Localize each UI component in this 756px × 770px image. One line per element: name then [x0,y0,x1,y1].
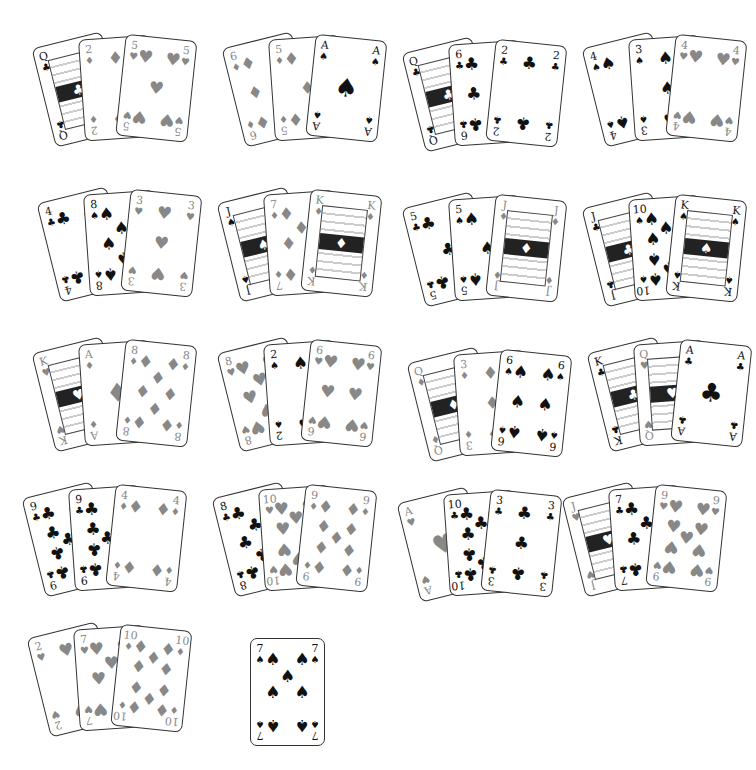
playing-card-8-of-diamonds[interactable]: 8♦8♦8♦8♦♦♦♦♦♦♦♦♦ [115,339,197,448]
diamond-icon: ♦ [160,640,177,659]
card-rank: J [610,288,617,302]
card-hand: Q♦Q♦Q♦Q♦♦3♦3♦3♦3♦♦♦♦6♠6♠6♠6♠♠♠♠♠♠♠ [410,340,580,480]
court-card-artwork: ♠ [680,210,733,286]
heart-icon: ♥ [695,500,712,519]
club-icon: ♣ [468,115,484,133]
heart-icon: ♥ [241,388,260,408]
diamond-icon: ♦ [253,112,272,132]
card-hand: K♥K♥K♥K♥♥A♦A♦A♦A♦♦8♦8♦8♦8♦♦♦♦♦♦♦♦♦ [35,330,205,470]
heart-icon: ♥ [667,498,684,517]
heart-icon: ♥ [90,670,106,688]
diamond-icon: ♦ [341,540,358,559]
spade-icon: ♠ [699,240,713,257]
diamond-icon: ♦ [288,110,304,128]
club-icon: ♣ [53,562,72,582]
playing-card-3-of-hearts[interactable]: 3♥3♥3♥3♥♥♥♥ [120,189,202,298]
spade-icon: ♠ [295,716,310,733]
club-icon: ♣ [510,564,527,583]
heart-icon: ♥ [708,111,725,130]
heart-icon: ♥ [275,520,291,538]
heart-icon: ♥ [93,700,109,718]
heart-icon: ♥ [681,108,698,127]
playing-card-4-of-hearts[interactable]: 4♥4♥4♥4♥♥♥♥♥ [665,34,747,143]
spade-icon: ♠ [613,112,632,132]
pip-area: ♠ [320,50,373,126]
spade-icon: ♠ [512,363,529,382]
playing-card-K-of-diamonds[interactable]: K♦K♦K♦K♦♦ [300,189,382,298]
heart-icon: ♥ [343,416,360,435]
playing-card-6-of-spades[interactable]: 6♠6♠6♠6♠♠♠♠♠♠♠ [490,349,572,458]
spade-icon: ♠ [648,270,664,288]
heart-icon: ♥ [691,540,708,559]
playing-card-J-of-diamonds[interactable]: J♦J♦J♦J♦♦ [485,194,567,303]
playing-card-A-of-spades[interactable]: A♠A♠A♠A♠♠ [305,34,387,143]
spade-icon: ♠ [265,684,280,701]
playing-card-3-of-clubs[interactable]: 3♣3♣3♣3♣♣♣♣ [480,489,562,598]
diamond-icon: ♦ [148,561,165,580]
diamond-icon: ♦ [158,416,175,435]
playing-card-2-of-clubs[interactable]: 2♣2♣2♣2♣♣♣ [485,39,567,148]
diamond-icon: ♦ [158,660,175,679]
diamond-icon: ♦ [313,538,330,557]
club-icon: ♣ [463,565,479,583]
spade-icon: ♠ [506,423,523,442]
club-icon: ♣ [521,54,538,73]
playing-card-9-of-diamonds[interactable]: 9♦9♦9♦9♦♦♦♦♦♦♦♦♦♦ [295,484,377,593]
heart-icon: ♥ [347,385,364,404]
playing-card-A-of-clubs[interactable]: A♣A♣A♣A♣♣ [670,339,752,448]
heart-icon: ♥ [233,358,252,378]
club-icon: ♣ [433,272,452,292]
pip-area: ♦♦♦♦♦♦♦♦ [130,355,183,431]
spade-icon: ♠ [537,395,554,414]
playing-card-10-of-diamonds[interactable]: 10♦10♦10♦10♦♦♦♦♦♦♦♦♦♦♦ [110,624,192,733]
heart-icon: ♥ [131,108,148,127]
diamond-icon: ♦ [283,50,299,68]
heart-icon: ♥ [715,50,732,69]
spade-icon: ♠ [295,651,310,668]
playing-card-9-of-hearts[interactable]: 9♥9♥9♥9♥♥♥♥♥♥♥♥♥♥ [645,484,727,593]
club-icon: ♣ [68,267,87,287]
pip-area: ♦♦♦♦♦♦♦♦♦ [310,500,363,576]
diamond-icon: ♦ [162,385,179,404]
club-icon: ♣ [88,560,104,578]
diamond-icon: ♦ [482,364,498,382]
club-icon: ♣ [460,525,476,543]
card-hand: Q♣Q♣Q♣Q♣♣2♦2♦2♦2♦♦♦5♥5♥5♥5♥♥♥♥♥♥ [35,25,205,165]
spade-icon: ♠ [265,651,280,668]
spade-icon: ♠ [334,79,359,98]
diamond-icon: ♦ [283,265,299,283]
spade-icon: ♠ [103,265,119,283]
pip-area: ♥♥♥♥♥ [130,50,183,126]
playing-card-5-of-hearts[interactable]: 5♥5♥5♥5♥♥♥♥♥♥ [115,34,197,143]
card-hand: A♥A♥A♥A♥♥10♣10♣10♣10♣♣♣♣♣♣♣♣♣♣♣3♣3♣3♣3♣♣… [400,480,570,620]
spade-icon: ♠ [295,684,310,701]
pip-area: ♠♠♠♠♠♠ [505,365,558,441]
playing-card-K-of-spades[interactable]: K♠K♠K♠K♠♠ [665,194,747,303]
pip-area: ♥♥♥♥♥♥♥♥♥ [660,500,713,576]
card-rank: J [245,283,252,297]
pip-area: ♥♥♥ [135,205,188,281]
card-rank: J [493,279,499,292]
card-hand: J♣J♣J♣J♣♣10♠10♠10♠10♠♠♠♠♠♠♠♠♠♠♠K♠K♠K♠K♠♠ [585,185,755,325]
pip-area: ♠♠♠♠♠♠♠ [263,653,312,731]
heart-icon: ♥ [156,204,173,223]
playing-card-4-of-diamonds[interactable]: 4♦4♦4♦4♦♦♦♦♦ [105,484,187,593]
card-hand: J♥J♥J♥J♥♥7♣7♣7♣7♣♣♣♣♣♣♣♣9♥9♥9♥9♥♥♥♥♥♥♥♥♥… [565,475,735,615]
diamond-icon: ♦ [155,500,172,519]
spade-icon: ♠ [540,365,557,384]
card-hand: 8♣8♣8♣8♣♣♣♣♣♣♣♣♣10♥10♥10♥10♥♥♥♥♥♥♥♥♥♥♥9♦… [215,475,385,615]
playing-card-7-of-spades[interactable]: 7♠7♠7♠7♠♠♠♠♠♠♠♠ [250,638,325,746]
diamond-icon: ♦ [107,49,123,67]
club-icon: ♣ [86,540,102,558]
card-hand: 4♣4♣4♣4♣♣♣♣♣8♠8♠8♠8♠♠♠♠♠♠♠♠♠3♥3♥3♥3♥♥♥♥ [40,180,210,320]
playing-card-6-of-hearts[interactable]: 6♥6♥6♥6♥♥♥♥♥♥♥ [300,339,382,448]
diamond-icon: ♦ [153,701,170,720]
diamond-icon: ♦ [238,53,257,73]
club-icon: ♣ [513,534,530,553]
heart-icon: ♥ [278,560,294,578]
spade-icon: ♠ [598,53,617,73]
club-icon: ♣ [628,560,644,578]
diamond-icon: ♦ [131,413,148,432]
diamond-icon: ♦ [338,561,355,580]
card-hand: 5♣5♣5♣5♣♣♣♣♣♣5♠5♠5♠5♠♠♠♠♠♠J♦J♦J♦J♦♦ [405,185,575,325]
